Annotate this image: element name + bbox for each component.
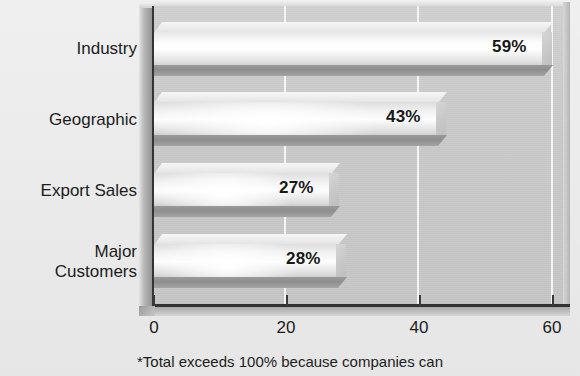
- chart-screenshot: 59% 43% 27% 28% Industry Geographic Expo…: [0, 0, 580, 376]
- chart-footnote: *Total exceeds 100% because companies ca…: [0, 352, 580, 371]
- tickmark-0: [153, 295, 155, 306]
- bar-shadow-face: [154, 135, 447, 146]
- category-label-export-sales: Export Sales: [41, 181, 137, 201]
- category-label-geographic: Geographic: [49, 110, 137, 130]
- bar-front-face: [154, 32, 544, 66]
- category-label-industry: Industry: [77, 39, 137, 59]
- bar-value-label: 43%: [386, 107, 421, 127]
- bar-value-label: 28%: [286, 249, 321, 269]
- plot-wall-left: [139, 4, 153, 316]
- bar-shadow-face: [154, 65, 553, 76]
- plot-wall-left-cap: [139, 2, 153, 8]
- bar-end-chamfer: [329, 173, 339, 207]
- plot-floor: [139, 307, 570, 316]
- x-tick-label-20: 20: [266, 318, 306, 338]
- plot-floor-corner: [139, 306, 155, 316]
- x-tick-label-40: 40: [399, 318, 439, 338]
- bar-end-chamfer: [542, 32, 552, 66]
- tickmark-20: [286, 295, 288, 306]
- x-tick-label-60: 60: [532, 318, 572, 338]
- plot-wall-right: [563, 2, 570, 312]
- bar-end-chamfer: [336, 244, 346, 278]
- x-tick-label-0: 0: [134, 318, 174, 338]
- tickmark-40: [419, 295, 421, 306]
- bar-shadow-face: [154, 206, 340, 217]
- tickmark-60: [552, 295, 554, 306]
- bar-end-chamfer: [436, 102, 446, 136]
- bar-value-label: 27%: [279, 178, 314, 198]
- category-label-major-customers: Major Customers: [55, 242, 137, 282]
- bar-value-label: 59%: [492, 37, 527, 57]
- footnote-line-1: *Total exceeds 100% because companies ca…: [137, 353, 443, 370]
- bar-shadow-face: [154, 277, 347, 288]
